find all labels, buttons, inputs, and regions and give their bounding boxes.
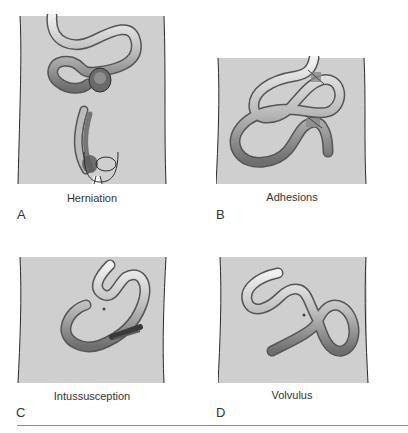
herniation-illustration bbox=[14, 14, 170, 188]
caption-herniation: Herniation bbox=[64, 192, 120, 204]
caption-adhesions: Adhesions bbox=[264, 191, 320, 203]
caption-intussusception: Intussusception bbox=[52, 390, 132, 402]
bottom-divider bbox=[17, 425, 408, 426]
label-d: D bbox=[216, 405, 225, 420]
panel-d-volvulus bbox=[218, 255, 370, 385]
intussusception-illustration bbox=[16, 255, 168, 385]
panel-b-adhesions bbox=[216, 56, 368, 188]
label-c: C bbox=[16, 405, 25, 420]
label-a: A bbox=[17, 207, 26, 222]
adhesions-illustration bbox=[216, 56, 368, 188]
volvulus-illustration bbox=[218, 255, 370, 385]
label-b: B bbox=[216, 207, 225, 222]
panel-a-herniation bbox=[14, 14, 170, 188]
panel-c-intussusception bbox=[16, 255, 168, 385]
caption-volvulus: Volvulus bbox=[266, 389, 318, 401]
